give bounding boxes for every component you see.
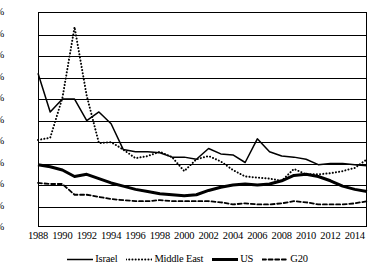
y-axis-tick-label: 10%	[0, 115, 4, 125]
legend-label: G20	[290, 253, 307, 265]
legend-item-g20[interactable]: G20	[262, 253, 307, 265]
data-series-layer	[38, 12, 367, 227]
y-axis-tick-label: 4%	[0, 179, 4, 189]
x-axis-tick-label: 2014	[337, 230, 373, 241]
dashed-line-swatch	[262, 255, 288, 264]
y-axis-tick-label: 16%	[0, 50, 4, 60]
solid-line-swatch	[67, 255, 93, 264]
y-axis-tick-label: 8%	[0, 136, 4, 146]
y-axis-tick-label: 12%	[0, 93, 4, 103]
chart-legend: IsraelMiddle EastUSG20	[0, 253, 375, 265]
y-axis-tick-label: 20%	[0, 7, 4, 17]
dotted-line-swatch	[126, 255, 152, 264]
y-axis-tick-label: 2%	[0, 201, 4, 211]
y-axis-tick-label: 6%	[0, 158, 4, 168]
legend-item-middle-east[interactable]: Middle East	[126, 253, 203, 265]
legend-label: Middle East	[154, 253, 203, 265]
thick-line-swatch	[212, 255, 238, 264]
legend-label: US	[240, 253, 253, 265]
legend-label: Israel	[95, 253, 117, 265]
y-axis-tick-label: 0%	[0, 222, 4, 232]
line-chart: 20%18%16%14%12%10%8%6%4%2%0% 19881990199…	[0, 0, 375, 277]
series-line-us	[38, 165, 367, 196]
series-line-middle-east	[38, 27, 367, 181]
y-axis-tick-label: 18%	[0, 29, 4, 39]
legend-item-us[interactable]: US	[212, 253, 253, 265]
series-line-israel	[38, 73, 367, 165]
y-axis-tick-label: 14%	[0, 72, 4, 82]
legend-item-israel[interactable]: Israel	[67, 253, 117, 265]
